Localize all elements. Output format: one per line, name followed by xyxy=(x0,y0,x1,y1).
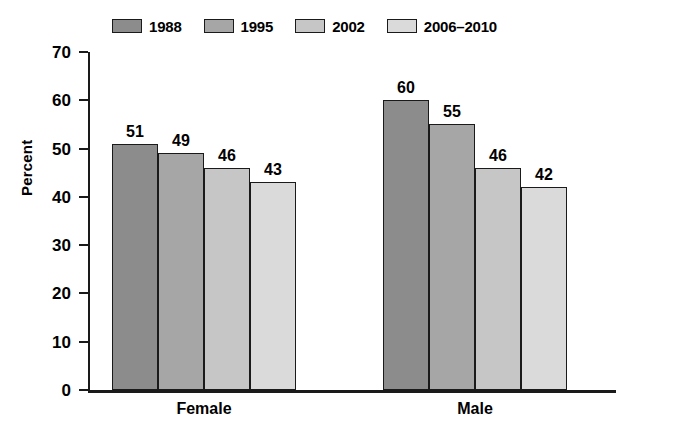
bar-female-2002: 46 xyxy=(204,168,250,390)
bar-female-1988: 51 xyxy=(112,144,158,390)
bar-male-1988: 60 xyxy=(383,100,429,390)
legend-swatch-2006-2010 xyxy=(387,19,417,33)
chart-legend: 1988 1995 2002 2006–2010 xyxy=(112,13,519,39)
y-tick-30: 30 xyxy=(79,244,88,246)
legend-label-2006-2010: 2006–2010 xyxy=(424,19,497,34)
y-axis-line xyxy=(88,52,90,390)
legend-item-2002: 2002 xyxy=(295,19,365,34)
y-tick-40: 40 xyxy=(79,196,88,198)
y-tick-label-70: 70 xyxy=(52,44,71,61)
y-tick-label-30: 30 xyxy=(52,237,71,254)
bar-value-label: 55 xyxy=(443,104,461,120)
bar-female-1995: 49 xyxy=(158,153,204,390)
category-label-female: Female xyxy=(176,400,231,418)
legend-label-1988: 1988 xyxy=(149,19,182,34)
bar-value-label: 43 xyxy=(264,162,282,178)
legend-label-1995: 1995 xyxy=(241,19,274,34)
bar-male-2006-2010: 42 xyxy=(521,187,567,390)
y-tick-20: 20 xyxy=(79,292,88,294)
legend-swatch-1995 xyxy=(204,19,234,33)
legend-item-1988: 1988 xyxy=(112,19,182,34)
bar-value-label: 42 xyxy=(535,167,553,183)
category-label-male: Male xyxy=(457,400,493,418)
y-tick-70: 70 xyxy=(79,51,88,53)
y-tick-label-0: 0 xyxy=(62,382,71,399)
legend-swatch-2002 xyxy=(295,19,325,33)
bar-female-2006-2010: 43 xyxy=(250,182,296,390)
y-tick-label-60: 60 xyxy=(52,92,71,109)
y-tick-60: 60 xyxy=(79,99,88,101)
y-tick-10: 10 xyxy=(79,341,88,343)
bar-value-label: 60 xyxy=(397,80,415,96)
plot-area: 010203040506070 5149464360554642 FemaleM… xyxy=(88,52,604,390)
x-axis-line xyxy=(88,390,616,393)
bar-male-1995: 55 xyxy=(429,124,475,390)
y-tick-label-10: 10 xyxy=(52,333,71,350)
y-tick-label-40: 40 xyxy=(52,188,71,205)
bar-chart: 1988 1995 2002 2006–2010 Percent 0102030… xyxy=(0,0,699,441)
y-tick-0: 0 xyxy=(79,389,88,391)
bar-male-2002: 46 xyxy=(475,168,521,390)
bar-value-label: 51 xyxy=(126,124,144,140)
legend-label-2002: 2002 xyxy=(332,19,365,34)
y-tick-label-20: 20 xyxy=(52,285,71,302)
legend-item-2006-2010: 2006–2010 xyxy=(387,19,497,34)
legend-item-1995: 1995 xyxy=(204,19,274,34)
legend-swatch-1988 xyxy=(112,19,142,33)
y-tick-50: 50 xyxy=(79,148,88,150)
y-tick-label-50: 50 xyxy=(52,140,71,157)
bar-value-label: 49 xyxy=(172,133,190,149)
y-axis-title: Percent xyxy=(18,140,35,196)
bar-value-label: 46 xyxy=(489,148,507,164)
bar-value-label: 46 xyxy=(218,148,236,164)
